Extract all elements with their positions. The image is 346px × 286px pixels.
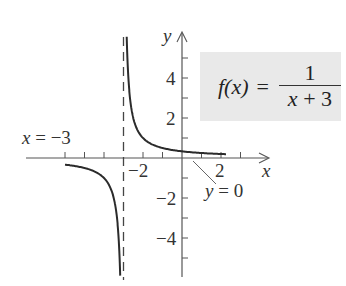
x-axis-label: x xyxy=(262,161,270,180)
den-constant: + 3 xyxy=(298,86,332,111)
den-variable: x xyxy=(288,86,298,111)
function-formula: f(x) = 1 x + 3 xyxy=(218,52,341,121)
y-tick-label-2: 2 xyxy=(166,109,176,128)
x-tick-label-neg2: −2 xyxy=(128,161,148,180)
horizontal-asymptote-label: y = 0 xyxy=(205,181,243,200)
formula-denominator: x + 3 xyxy=(288,86,332,112)
formula-equals: = xyxy=(257,74,269,100)
y-axis-label: y xyxy=(163,26,171,45)
formula-fraction: 1 x + 3 xyxy=(279,61,341,112)
y-tick-label-neg2: −2 xyxy=(156,189,176,208)
x-tick-label-2: 2 xyxy=(215,161,225,180)
formula-numerator: 1 xyxy=(302,61,317,85)
y-tick-label-neg4: −4 xyxy=(156,229,176,248)
vertical-asymptote-label: x = −3 xyxy=(22,128,71,147)
formula-lhs: f(x) xyxy=(218,74,249,100)
formula-box: f(x) = 1 x + 3 xyxy=(200,52,341,121)
y-tick-label-4: 4 xyxy=(166,69,176,88)
